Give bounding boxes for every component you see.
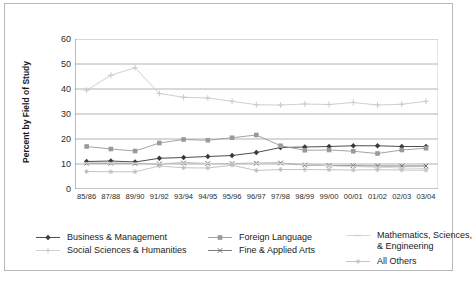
line-chart-canvas bbox=[75, 39, 438, 189]
data-point-marker bbox=[278, 143, 283, 148]
legend-swatch-icon bbox=[345, 257, 371, 266]
data-point-marker bbox=[254, 150, 259, 155]
x-axis-tick-label: 89/90 bbox=[126, 192, 145, 201]
legend-label: Business & Management bbox=[67, 232, 167, 243]
data-point-marker bbox=[45, 235, 50, 240]
data-point-marker bbox=[230, 135, 235, 140]
chart-series bbox=[84, 65, 429, 108]
x-axis-tick-label: 01/02 bbox=[368, 192, 387, 201]
y-axis-tick-label: 50 bbox=[53, 60, 71, 68]
y-axis-tick-label: 40 bbox=[53, 85, 71, 93]
data-point-marker bbox=[424, 146, 429, 151]
legend-label: Foreign Language bbox=[239, 232, 312, 243]
data-point-marker bbox=[157, 156, 162, 161]
chart-legend: Business & ManagementSocial Sciences & H… bbox=[35, 232, 447, 272]
x-axis-tick-label: 94/95 bbox=[198, 192, 217, 201]
series-line bbox=[87, 68, 426, 105]
x-axis-tick-label: 91/92 bbox=[150, 192, 169, 201]
data-point-marker bbox=[399, 148, 404, 153]
data-point-marker bbox=[218, 235, 223, 240]
legend-swatch-icon bbox=[345, 231, 371, 240]
y-axis-title: Percent by Field of Study bbox=[21, 42, 35, 182]
legend-label: Fine & Applied Arts bbox=[239, 245, 315, 256]
legend-item: Business & Management bbox=[35, 232, 167, 243]
x-axis-tick-label: 99/00 bbox=[320, 192, 339, 201]
chart-plot-area: Percent by Field of Study 0102030405060 … bbox=[5, 4, 452, 270]
legend-item: Fine & Applied Arts bbox=[207, 245, 315, 256]
data-point-marker bbox=[229, 153, 234, 158]
legend-swatch-icon bbox=[207, 246, 233, 255]
y-axis-tick-label: 30 bbox=[53, 110, 71, 118]
y-axis-tick-label: 60 bbox=[53, 35, 71, 43]
data-point-marker bbox=[351, 149, 356, 154]
y-axis-ticks: 0102030405060 bbox=[51, 4, 71, 270]
x-axis-tick-label: 03/04 bbox=[417, 192, 436, 201]
x-axis-tick-label: 00/01 bbox=[344, 192, 363, 201]
data-point-marker bbox=[109, 147, 114, 152]
data-point-marker bbox=[351, 143, 356, 148]
x-axis-tick-label: 98/99 bbox=[295, 192, 314, 201]
x-axis-tick-label: 96/97 bbox=[247, 192, 266, 201]
y-axis-tick-label: 10 bbox=[53, 160, 71, 168]
x-axis-tick-label: 97/98 bbox=[271, 192, 290, 201]
data-point-marker bbox=[84, 144, 89, 149]
x-axis-tick-label: 95/96 bbox=[223, 192, 242, 201]
data-point-marker bbox=[181, 137, 186, 142]
legend-item: Social Sciences & Humanities bbox=[35, 245, 187, 256]
legend-item: Mathematics, Sciences, bbox=[345, 230, 472, 241]
legend-swatch-icon bbox=[207, 233, 233, 242]
x-axis-tick-label: 93/94 bbox=[174, 192, 193, 201]
x-axis-tick-label: 02/03 bbox=[392, 192, 411, 201]
legend-swatch-icon bbox=[35, 233, 61, 242]
legend-label: & Engineering bbox=[377, 241, 434, 252]
legend-label: Mathematics, Sciences, bbox=[377, 230, 472, 241]
data-point-marker bbox=[157, 141, 162, 146]
data-point-marker bbox=[375, 143, 380, 148]
data-point-marker bbox=[181, 155, 186, 160]
legend-item: All Others bbox=[345, 256, 417, 267]
chart-svg bbox=[75, 39, 438, 189]
data-point-marker bbox=[327, 148, 332, 153]
legend-item: Foreign Language bbox=[207, 232, 312, 243]
y-axis-tick-label: 0 bbox=[53, 185, 71, 193]
y-axis-tick-label: 20 bbox=[53, 135, 71, 143]
legend-label: Social Sciences & Humanities bbox=[67, 245, 187, 256]
data-point-marker bbox=[303, 148, 308, 153]
data-point-marker bbox=[375, 151, 380, 156]
x-axis-ticks: 85/8687/8889/9091/9293/9494/9595/9696/97… bbox=[75, 192, 438, 208]
x-axis-tick-label: 87/88 bbox=[101, 192, 120, 201]
chart-frame: Percent by Field of Study 0102030405060 … bbox=[4, 3, 453, 271]
legend-swatch-icon bbox=[35, 246, 61, 255]
data-point-marker bbox=[254, 133, 259, 138]
data-point-marker bbox=[133, 149, 138, 154]
legend-label: All Others bbox=[377, 256, 417, 267]
data-point-marker bbox=[205, 154, 210, 159]
data-point-marker bbox=[206, 138, 211, 143]
legend-item: & Engineering bbox=[345, 241, 434, 252]
x-axis-tick-label: 85/86 bbox=[77, 192, 96, 201]
